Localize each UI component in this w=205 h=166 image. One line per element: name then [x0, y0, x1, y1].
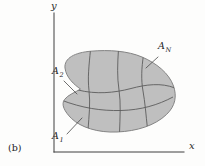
- subregion-label-a1-subscript: 1: [59, 136, 63, 144]
- subregion-label-a2-base: A: [52, 65, 59, 76]
- subregion-label-a2-subscript: 2: [59, 71, 63, 79]
- figure-caption-label: (b): [8, 143, 22, 153]
- subregion-label-an: AN: [158, 41, 171, 51]
- subregion-label-an-subscript: N: [165, 46, 171, 54]
- subregion-label-a2: A2: [52, 66, 64, 76]
- y-axis-label: y: [51, 1, 57, 11]
- region-diagram-svg: [0, 0, 205, 166]
- partitioned-region-figure: y x A2 A1 AN (b): [0, 0, 205, 166]
- x-axis-label: x: [189, 141, 195, 151]
- subregion-label-a1: A1: [52, 131, 64, 141]
- subregion-label-a1-base: A: [52, 130, 59, 141]
- subregion-label-an-base: A: [158, 40, 165, 51]
